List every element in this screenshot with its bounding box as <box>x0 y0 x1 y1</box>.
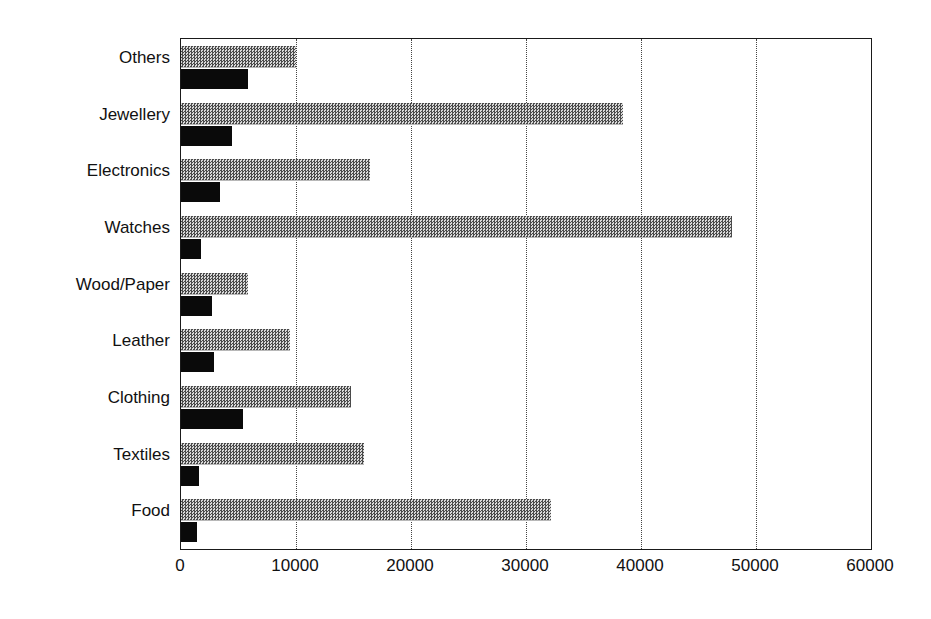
bar-gray-others <box>181 46 296 68</box>
bar-gray-electronics <box>181 159 370 181</box>
bar-group <box>181 209 871 266</box>
bar-gray-textiles <box>181 443 364 465</box>
bar-gray-food <box>181 499 551 521</box>
bar-black-wood-paper <box>181 296 212 316</box>
x-tick-label-40000: 40000 <box>616 556 663 576</box>
y-axis-label-jewellery: Jewellery <box>10 106 170 123</box>
x-tick-label-10000: 10000 <box>271 556 318 576</box>
x-tick-label-60000: 60000 <box>846 556 893 576</box>
bar-gray-leather <box>181 329 290 351</box>
y-axis-label-clothing: Clothing <box>10 389 170 406</box>
x-tick-label-20000: 20000 <box>386 556 433 576</box>
x-tick-label-30000: 30000 <box>501 556 548 576</box>
bar-chart: OthersJewelleryElectronicsWatchesWood/Pa… <box>0 0 931 619</box>
bar-gray-watches <box>181 216 732 238</box>
x-axis-tick-labels: 0100002000030000400005000060000 <box>180 556 870 586</box>
bar-black-others <box>181 69 248 89</box>
bar-gray-jewellery <box>181 103 623 125</box>
y-axis-label-watches: Watches <box>10 219 170 236</box>
bar-group <box>181 492 871 549</box>
y-axis-label-textiles: Textiles <box>10 446 170 463</box>
plot-area <box>180 38 872 550</box>
y-axis-label-wood-paper: Wood/Paper <box>10 276 170 293</box>
bar-black-jewellery <box>181 126 232 146</box>
bar-gray-clothing <box>181 386 351 408</box>
bar-group <box>181 39 871 96</box>
bar-group <box>181 436 871 493</box>
bar-group <box>181 96 871 153</box>
bar-black-textiles <box>181 466 199 486</box>
bar-black-leather <box>181 352 214 372</box>
bar-group <box>181 266 871 323</box>
x-tick-label-50000: 50000 <box>731 556 778 576</box>
bar-black-clothing <box>181 409 243 429</box>
bar-group <box>181 152 871 209</box>
bar-black-electronics <box>181 182 220 202</box>
bar-black-watches <box>181 239 201 259</box>
plot-inner <box>181 39 871 549</box>
y-axis-label-leather: Leather <box>10 332 170 349</box>
y-axis-label-food: Food <box>10 502 170 519</box>
bar-black-food <box>181 522 197 542</box>
y-axis-label-others: Others <box>10 49 170 66</box>
y-axis-labels: OthersJewelleryElectronicsWatchesWood/Pa… <box>8 38 170 548</box>
y-axis-label-electronics: Electronics <box>10 162 170 179</box>
bar-group <box>181 322 871 379</box>
x-tick-label-0: 0 <box>175 556 184 576</box>
bar-group <box>181 379 871 436</box>
bar-gray-wood-paper <box>181 273 248 295</box>
